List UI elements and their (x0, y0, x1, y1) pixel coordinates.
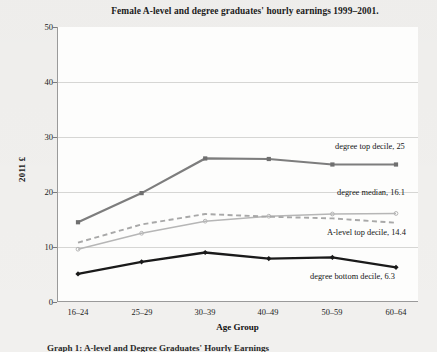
data-point-degree-bottom-decile-1 (139, 259, 144, 264)
data-point-degree-bottom-decile-5 (393, 265, 398, 270)
data-point-degree-bottom-decile-4 (330, 255, 335, 260)
x-tick-label-3: 40–49 (238, 308, 298, 317)
x-tick-label-2: 30–39 (175, 308, 235, 317)
x-tick-label-1: 25–29 (112, 308, 172, 317)
chart-lines-layer (0, 0, 437, 352)
data-point-degree-bottom-decile-2 (203, 250, 208, 255)
series-label-degree-top-decile: degree top decile, 25 (335, 142, 405, 151)
data-point-degree-top-decile-2 (203, 156, 207, 160)
data-point-degree-bottom-decile-3 (266, 256, 271, 261)
x-tick-label-4: 50–59 (302, 308, 362, 317)
x-tick-label-5: 60–64 (366, 308, 426, 317)
x-tick-label-0: 16–24 (48, 308, 108, 317)
series-label-degree-bottom-decile: degree bottom decile, 6.3 (310, 272, 395, 281)
data-point-degree-bottom-decile-0 (75, 271, 80, 276)
series-line-degree-bottom-decile (78, 253, 396, 274)
chart-page: Female A-level and degree graduates' hou… (0, 0, 437, 352)
figure-caption: Graph 1: A-level and Degree Graduates' H… (47, 343, 417, 352)
series-label-degree-median: degree median, 16.1 (337, 188, 405, 197)
series-label-a-level-top-decile: A-level top decile, 14.4 (327, 228, 406, 237)
data-point-degree-top-decile-3 (267, 157, 271, 161)
data-point-degree-top-decile-4 (330, 162, 334, 166)
data-point-degree-top-decile-0 (76, 220, 80, 224)
data-point-degree-top-decile-5 (394, 162, 398, 166)
data-point-degree-top-decile-1 (140, 191, 144, 195)
x-axis-title: Age Group (57, 322, 418, 332)
